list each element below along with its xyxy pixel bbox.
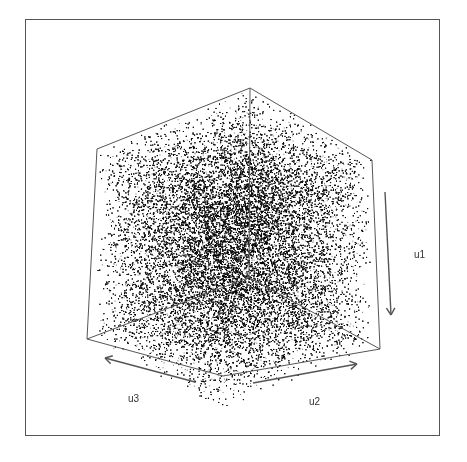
axis-label-u3: u3 [128,393,139,404]
arrow-u3-icon [105,358,195,382]
cube-overlay [0,0,467,462]
cube-edge [97,88,250,149]
arrow-u2-icon [253,364,357,383]
cube-edge [223,349,380,376]
cube-edges [87,88,380,376]
cube-edge [372,160,380,349]
cube-edge [249,88,250,278]
axis-label-u2: u2 [309,396,320,407]
cube-edge [87,278,249,340]
cube-edge [87,149,97,339]
arrow-u1-icon [385,192,391,315]
cube-edge [249,278,380,350]
axis-label-u1: u1 [414,249,425,260]
cube-edge [250,88,372,160]
